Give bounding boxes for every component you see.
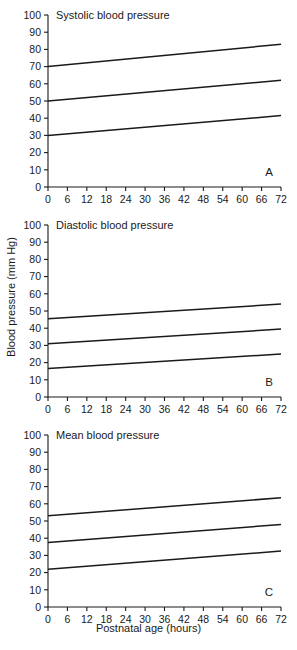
data-line-upper xyxy=(48,304,281,319)
panel-title: Systolic blood pressure xyxy=(56,9,170,21)
x-tick-label: 54 xyxy=(217,193,229,205)
y-tick-label: 20 xyxy=(29,356,41,368)
panel-letter: A xyxy=(265,166,273,178)
x-tick-label: 42 xyxy=(178,403,190,415)
y-tick-label: 10 xyxy=(29,164,41,176)
data-line-upper xyxy=(48,498,281,516)
chart-plot-area: 0102030405060708090100061218243036424854… xyxy=(0,210,297,420)
chart-panel-systolic: 0102030405060708090100061218243036424854… xyxy=(0,0,297,210)
x-tick-label: 24 xyxy=(120,403,132,415)
y-tick-label: 70 xyxy=(29,480,41,492)
x-tick-label: 42 xyxy=(178,193,190,205)
axis-spines xyxy=(48,435,281,607)
x-tick-label: 66 xyxy=(256,403,268,415)
y-tick-label: 90 xyxy=(29,26,41,38)
y-tick-label: 50 xyxy=(29,95,41,107)
x-tick-label: 60 xyxy=(236,193,248,205)
y-tick-label: 10 xyxy=(29,374,41,386)
chart-plot-area: 0102030405060708090100061218243036424854… xyxy=(0,0,297,210)
axis-spines xyxy=(48,15,281,187)
y-tick-label: 90 xyxy=(29,446,41,458)
y-tick-label: 20 xyxy=(29,566,41,578)
y-tick-label: 0 xyxy=(35,181,41,193)
panel-letter: C xyxy=(265,586,273,598)
x-tick-label: 48 xyxy=(197,403,209,415)
y-tick-label: 80 xyxy=(29,253,41,265)
x-tick-label: 30 xyxy=(139,193,151,205)
x-tick-label: 60 xyxy=(236,403,248,415)
y-tick-label: 100 xyxy=(23,9,41,21)
blood-pressure-figure: 0102030405060708090100061218243036424854… xyxy=(0,0,297,650)
data-line-lower xyxy=(48,116,281,136)
y-tick-label: 60 xyxy=(29,288,41,300)
panel-letter: B xyxy=(265,376,273,388)
x-tick-label: 36 xyxy=(159,193,171,205)
y-tick-label: 0 xyxy=(35,601,41,613)
chart-panel-diastolic: 0102030405060708090100061218243036424854… xyxy=(0,210,297,420)
y-tick-label: 100 xyxy=(23,219,41,231)
panel-title: Mean blood pressure xyxy=(56,429,159,441)
data-line-upper xyxy=(48,44,281,66)
y-tick-label: 70 xyxy=(29,270,41,282)
y-tick-label: 30 xyxy=(29,549,41,561)
y-axis-title: Blood pressure (mm Hg) xyxy=(3,207,19,387)
y-tick-label: 60 xyxy=(29,498,41,510)
y-tick-label: 0 xyxy=(35,391,41,403)
data-line-middle xyxy=(48,329,281,344)
x-tick-label: 0 xyxy=(45,193,51,205)
x-tick-label: 24 xyxy=(120,193,132,205)
data-line-lower xyxy=(48,551,281,569)
y-tick-label: 50 xyxy=(29,515,41,527)
x-tick-label: 36 xyxy=(159,403,171,415)
x-tick-label: 6 xyxy=(64,193,70,205)
chart-plot-area: 0102030405060708090100061218243036424854… xyxy=(0,420,297,630)
x-tick-label: 48 xyxy=(197,193,209,205)
y-tick-label: 40 xyxy=(29,532,41,544)
x-tick-label: 30 xyxy=(139,403,151,415)
x-tick-label: 12 xyxy=(81,403,93,415)
x-tick-label: 54 xyxy=(217,403,229,415)
x-tick-label: 66 xyxy=(256,193,268,205)
y-tick-label: 30 xyxy=(29,339,41,351)
y-tick-label: 40 xyxy=(29,112,41,124)
x-tick-label: 18 xyxy=(100,193,112,205)
y-tick-label: 20 xyxy=(29,146,41,158)
x-tick-label: 6 xyxy=(64,403,70,415)
y-tick-label: 80 xyxy=(29,463,41,475)
y-tick-label: 50 xyxy=(29,305,41,317)
x-tick-label: 18 xyxy=(100,403,112,415)
x-axis-title: Postnatal age (hours) xyxy=(0,620,297,636)
y-tick-label: 30 xyxy=(29,129,41,141)
y-tick-label: 80 xyxy=(29,43,41,55)
y-tick-label: 40 xyxy=(29,322,41,334)
x-tick-label: 72 xyxy=(275,193,287,205)
x-tick-label: 12 xyxy=(81,193,93,205)
chart-panel-mean: 0102030405060708090100061218243036424854… xyxy=(0,420,297,630)
y-tick-label: 10 xyxy=(29,584,41,596)
x-tick-label: 72 xyxy=(275,403,287,415)
data-line-lower xyxy=(48,354,281,369)
x-tick-label: 0 xyxy=(45,403,51,415)
data-line-middle xyxy=(48,80,281,101)
y-tick-label: 100 xyxy=(23,429,41,441)
y-tick-label: 60 xyxy=(29,78,41,90)
y-tick-label: 70 xyxy=(29,60,41,72)
panel-title: Diastolic blood pressure xyxy=(56,219,173,231)
data-line-middle xyxy=(48,524,281,542)
y-tick-label: 90 xyxy=(29,236,41,248)
